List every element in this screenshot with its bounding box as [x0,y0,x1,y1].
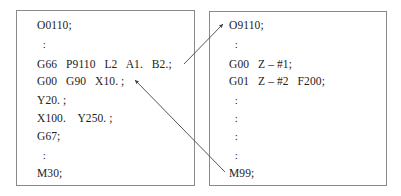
main-program-line: Y20. ; [37,94,66,107]
main-program-ellipsis: : [37,38,46,51]
macro-program-ellipsis: : [229,130,238,143]
macro-program-line: M99; [229,167,254,180]
macro-program-ellipsis: : [229,94,238,107]
macro-program-ellipsis: : [229,112,238,125]
main-program-line: G66 P9110 L2 A1. B2.; [37,58,172,71]
macro-program-ellipsis: : [229,149,238,162]
macro-program-ellipsis: : [229,38,238,51]
main-program-line: G67; [37,130,60,143]
main-program-line: X100. Y250. ; [37,112,113,125]
macro-program-line: O9110; [229,19,264,32]
main-program-ellipsis: : [37,149,46,162]
main-program-line: O0110; [37,19,72,32]
macro-program-line: G00 Z – #1; [229,58,292,71]
main-program-line: G00 G90 X10. ; [37,75,124,88]
main-program-line: M30; [37,167,62,180]
macro-program-line: G01 Z – #2 F200; [229,75,325,88]
